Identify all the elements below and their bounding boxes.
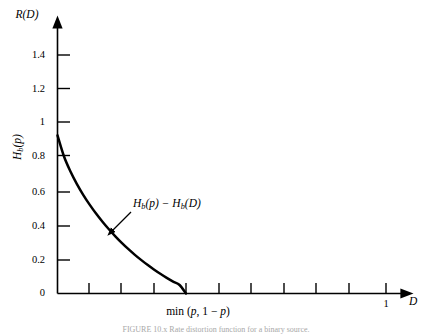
y-tick-label: 1.4: [0, 50, 45, 61]
x-axis-title: D: [409, 296, 417, 308]
y-tick-label: 0.8: [0, 150, 45, 161]
y-tick-label: 0: [0, 288, 45, 299]
y-tick-label: 0.4: [0, 221, 45, 232]
y-tick-label: 1.2: [0, 83, 45, 94]
y-tick-label: 0.2: [0, 255, 45, 266]
y-tick-label: 1: [0, 117, 45, 128]
x-tick-label: 1: [383, 299, 388, 310]
rate-distortion-curve: [58, 135, 187, 293]
y-axis-title: R(D): [16, 9, 39, 21]
rate-distortion-figure: R(D) D Hb(p) Hb(p) − Hb(D) min (p, 1 − p…: [0, 0, 432, 335]
region-label-prefix: min (: [166, 305, 191, 317]
region-label-mid: , 1 −: [197, 305, 221, 317]
curve-annotation-text: Hb(p) − Hb(D): [133, 197, 201, 209]
y-tick-label: 0.6: [0, 187, 45, 198]
annotation-arrow: [113, 212, 132, 231]
figure-caption: FIGURE 10.x Rate distortion function for…: [0, 326, 432, 334]
curve-annotation-label: Hb(p) − Hb(D): [133, 198, 201, 211]
region-label-suffix: ): [226, 305, 230, 317]
x-axis-ticks: [89, 283, 386, 294]
x-axis-region-label: min (p, 1 − p): [166, 306, 230, 318]
plot-canvas: [0, 0, 432, 335]
